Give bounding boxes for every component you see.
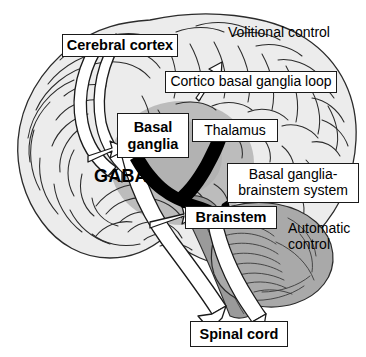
annotation-volitional-control: Volitional control [228,24,330,40]
label-cerebral-cortex: Cerebral cortex [62,34,178,57]
diagram-canvas: Cerebral cortex Cortico basal ganglia lo… [0,0,366,357]
label-spinal-cord: Spinal cord [190,321,288,347]
label-basal-ganglia-brainstem-system: Basal ganglia- brainstem system [227,163,359,203]
annotation-automatic-control: Automatic control [288,220,350,252]
annotation-gaba: GABA [94,166,148,187]
label-basal-ganglia: Basal ganglia [117,113,189,158]
label-brainstem: Brainstem [185,206,277,229]
label-thalamus: Thalamus [192,119,278,142]
label-cortico-basal-ganglia-loop: Cortico basal ganglia loop [165,71,337,93]
